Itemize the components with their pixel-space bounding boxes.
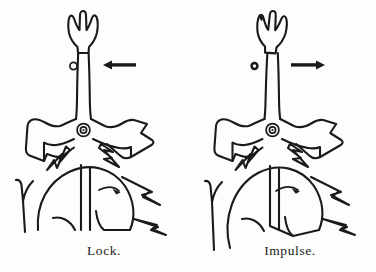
escape-wheel-tooth-left-impulse bbox=[205, 181, 222, 202]
pallet-fork-body-impulse bbox=[214, 119, 264, 161]
escapement-diagram bbox=[0, 0, 376, 272]
fork-stem-right-lock bbox=[89, 53, 91, 119]
pallet-arbor-pivot-impulse bbox=[266, 124, 279, 137]
escape-wheel-tooth-right2-lock bbox=[134, 219, 166, 235]
panel-lock bbox=[16, 11, 166, 235]
panel-impulse bbox=[205, 10, 355, 250]
balance-arrow-impulse bbox=[291, 60, 325, 69]
entry-pallet-stone-lock bbox=[47, 147, 70, 171]
pallet-arbor-pivot-lock bbox=[77, 124, 90, 137]
escape-wheel-tooth-left2-lock bbox=[23, 201, 25, 232]
escape-wheel-spoke-curve-impulse bbox=[242, 219, 264, 232]
escape-wheel-impulse-face bbox=[270, 166, 293, 236]
caption-impulse: Impulse. bbox=[190, 238, 376, 264]
fork-stem-impulse bbox=[265, 53, 268, 119]
fork-horns-lock bbox=[68, 11, 97, 53]
roller-jewel-impulse bbox=[250, 62, 258, 70]
pallet-fork-body-right-lock bbox=[91, 119, 153, 158]
escape-wheel-body-impulse bbox=[285, 186, 322, 236]
caption-lock: Lock. bbox=[0, 238, 190, 264]
escape-wheel-body-lock bbox=[96, 186, 133, 230]
entry-pallet-stone-impulse bbox=[236, 147, 259, 171]
pallet-fork-body-lock bbox=[26, 119, 76, 161]
escape-wheel-arrow-lock bbox=[99, 187, 121, 194]
caption-row: Lock. Impulse. bbox=[0, 238, 376, 264]
balance-arrow-lock bbox=[103, 60, 136, 69]
escape-wheel-tooth-left-lock bbox=[16, 180, 33, 201]
figure-plate: Lock. Impulse. bbox=[0, 0, 376, 272]
escape-wheel-spoke-curve-lock bbox=[53, 218, 75, 231]
roller-jewel-lock bbox=[70, 62, 77, 69]
pallet-fork-body-right-impulse bbox=[280, 119, 342, 158]
fork-stem-right-impulse bbox=[278, 53, 280, 119]
escape-wheel-tooth-right2-impulse bbox=[323, 219, 355, 235]
